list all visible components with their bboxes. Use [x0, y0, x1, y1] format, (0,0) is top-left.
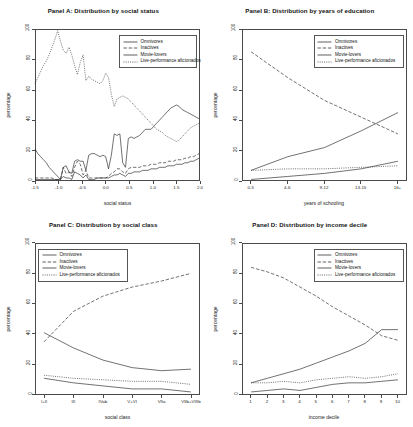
x-tick-mark — [283, 395, 284, 398]
panel-d-ylabel: percentage — [212, 279, 218, 359]
x-tick-mark — [132, 395, 133, 398]
x-tick-mark — [324, 181, 325, 184]
legend-label: Omnivores — [335, 39, 357, 46]
y-tick-label: 60 — [233, 86, 238, 91]
x-tick-mark — [105, 181, 106, 184]
legend-row: Omnivores — [317, 39, 400, 46]
legend-label: Inactives — [335, 259, 353, 266]
x-tick-mark — [58, 181, 59, 184]
series-line — [251, 166, 398, 171]
legend-key-dashed — [42, 259, 57, 265]
y-tick-mark — [239, 90, 242, 91]
legend-key-solid — [317, 265, 332, 271]
legend-label: Live-performance aficionados — [335, 58, 395, 65]
legend-label: Movie-lovers — [60, 265, 86, 272]
y-tick-mark — [239, 364, 242, 365]
legend-row: Inactives — [317, 45, 400, 52]
legend-label: Inactives — [335, 45, 353, 52]
x-tick-mark — [35, 181, 36, 184]
series-line — [251, 373, 398, 382]
legend-key-solid — [317, 39, 332, 45]
panel-b-title: Panel B: Distribution by years of educat… — [207, 7, 413, 14]
y-tick-mark — [239, 150, 242, 151]
legend-label: Inactives — [141, 45, 159, 52]
y-tick-label: 0 — [29, 391, 32, 396]
panel-c: Panel C: Distribution by social class pe… — [0, 214, 207, 427]
y-tick-mark — [239, 333, 242, 334]
y-tick-label: 80 — [26, 55, 31, 60]
x-tick-mark — [397, 395, 398, 398]
y-tick-label: 100 — [24, 25, 32, 30]
x-tick-label: 16+ — [394, 185, 401, 190]
x-tick-mark — [161, 395, 162, 398]
y-tick-mark — [239, 120, 242, 121]
y-tick-label: 20 — [233, 360, 238, 365]
legend-label: Inactives — [60, 259, 78, 266]
legend-key-dotted — [317, 59, 332, 65]
x-tick-label: 1 — [249, 399, 251, 404]
y-tick-mark — [32, 333, 35, 334]
y-tick-label: 20 — [26, 360, 31, 365]
legend-row: Live-performance aficionados — [123, 58, 194, 65]
y-tick-mark — [239, 303, 242, 304]
x-tick-mark — [299, 395, 300, 398]
x-tick-mark — [348, 395, 349, 398]
x-tick-mark — [332, 395, 333, 398]
legend-label: Live-performance aficionados — [141, 58, 201, 65]
y-tick-label: 60 — [26, 299, 31, 304]
legend-row: Live-performance aficionados — [317, 58, 400, 65]
y-tick-label: 80 — [233, 269, 238, 274]
y-tick-mark — [239, 29, 242, 30]
y-tick-label: 100 — [230, 25, 238, 30]
x-tick-label: 10 — [395, 399, 400, 404]
panel-a-legend: OmnivoresInactivesMovie-loversLive-perfo… — [119, 35, 197, 68]
y-tick-mark — [32, 150, 35, 151]
y-tick-label: 40 — [26, 116, 31, 121]
panel-b-xlabel: years of schooling — [242, 200, 407, 206]
legend-row: Live-performance aficionados — [42, 272, 125, 279]
legend-label: Omnivores — [141, 39, 163, 46]
x-tick-label: VIIb+VIIIb — [181, 399, 200, 404]
x-tick-label: 9-12 — [320, 185, 329, 190]
y-tick-label: 100 — [24, 239, 32, 244]
series-line — [44, 375, 191, 384]
series-line — [44, 273, 191, 341]
y-tick-mark — [32, 273, 35, 274]
legend-row: Inactives — [42, 259, 125, 266]
x-tick-label: 1.5 — [173, 185, 179, 190]
series-line — [35, 154, 199, 180]
legend-label: Omnivores — [60, 252, 82, 259]
x-tick-label: -1.5 — [31, 185, 39, 190]
x-tick-mark — [250, 181, 251, 184]
legend-key-dashed — [123, 45, 138, 51]
panel-b-legend: OmnivoresInactivesMovie-loversLive-perfo… — [314, 35, 404, 68]
legend-label: Live-performance aficionados — [60, 272, 120, 279]
x-tick-label: 4 — [298, 399, 300, 404]
legend-key-solid — [317, 252, 332, 258]
y-tick-mark — [239, 242, 242, 243]
x-tick-label: 4-6 — [284, 185, 290, 190]
x-tick-label: VIIa — [158, 399, 166, 404]
y-tick-mark — [32, 90, 35, 91]
series-line — [251, 161, 398, 179]
panel-c-title: Panel C: Distribution by social class — [0, 221, 207, 228]
panel-d-title: Panel D: Distribution by income decile — [207, 221, 413, 228]
series-line — [251, 329, 398, 382]
legend-key-solid — [42, 252, 57, 258]
x-tick-mark — [287, 181, 288, 184]
series-line — [44, 332, 191, 370]
x-tick-mark — [153, 181, 154, 184]
panel-c-legend: OmnivoresInactivesMovie-loversLive-perfo… — [38, 249, 128, 282]
x-tick-label: 0.5 — [126, 185, 132, 190]
panel-a-ylabel: percentage — [5, 65, 11, 145]
y-tick-label: 0 — [235, 391, 238, 396]
x-tick-mark — [103, 395, 104, 398]
y-tick-mark — [239, 59, 242, 60]
y-tick-label: 40 — [26, 330, 31, 335]
x-tick-label: 1.0 — [150, 185, 156, 190]
legend-label: Live-performance aficionados — [335, 272, 395, 279]
panel-a: Panel A: Distribution by social status p… — [0, 0, 207, 214]
series-line — [44, 378, 191, 392]
legend-row: Inactives — [317, 259, 400, 266]
legend-row: Inactives — [123, 45, 194, 52]
